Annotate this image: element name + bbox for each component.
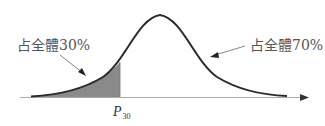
x-axis-arrow-icon bbox=[300, 94, 309, 101]
left-annotation-pointer bbox=[60, 55, 83, 73]
percentile-marker-label: P30 bbox=[112, 104, 131, 121]
left-pointer-arrowhead-icon bbox=[78, 68, 86, 76]
left-annotation-label: 占全體30% bbox=[17, 37, 90, 53]
right-pointer-arrowhead-icon bbox=[210, 52, 219, 58]
right-annotation-pointer bbox=[215, 46, 245, 55]
bell-curve bbox=[31, 15, 287, 97]
right-annotation-label: 占全體70% bbox=[250, 37, 323, 53]
normal-curve-diagram: 占全體30% 占全體70% P30 bbox=[0, 0, 325, 126]
